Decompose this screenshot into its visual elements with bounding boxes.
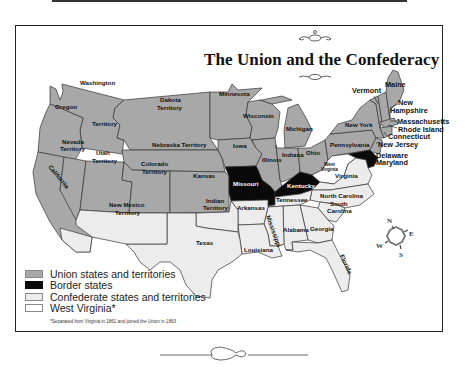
title-ornament-bottom [299,75,331,80]
label-michigan: Michigan [286,125,313,132]
legend-swatch-border [25,281,43,289]
legend-swatch-west-virginia [25,304,43,312]
label-utah-1: Utah [96,149,110,156]
label-georgia: Georgia [310,225,334,232]
label-pennsylvania: Pennsylvania [330,141,370,148]
legend-swatch-confederate [25,293,43,301]
compass-w: W [376,242,383,250]
label-kentucky: Kentucky [287,182,315,189]
label-nevada-2: Territory [60,145,86,152]
label-new-jersey: New Jersey [378,140,419,149]
legend-label: Border states [50,279,112,291]
compass-n: N [387,217,392,225]
label-new-mexico-2: Territory [115,209,141,216]
label-alabama: Alabama [283,226,309,233]
legend-item-west-virginia: West Virginia* [25,303,206,315]
compass-e: E [409,230,414,238]
label-arkansas: Arkansas [237,204,265,211]
legend-label: West Virginia* [50,302,116,314]
bottom-ornament [160,347,308,360]
label-new-york: New York [345,121,373,128]
label-louisiana: Louisiana [244,246,273,253]
label-north-carolina: North Carolina [320,192,364,199]
label-washington-territory: Territory [92,120,118,127]
label-dakota-2: Territory [157,104,183,111]
legend-footnote: *Separated from Virginia in 1861 and joi… [50,319,176,324]
label-indian-2: Territory [203,204,229,211]
legend-label: Union states and territories [50,268,175,280]
title-ornament-top [299,31,331,42]
label-colorado-2: Territory [142,168,168,175]
label-iowa: Iowa [233,142,247,149]
region-wisconsin [246,100,280,140]
label-utah-2: Territory [92,157,118,164]
legend-label: Confederate states and territories [50,291,206,303]
label-new-hampshire-2: Hampshire [390,106,428,115]
legend-item-confederate: Confederate states and territories [25,291,206,303]
label-oregon: Oregon [55,103,77,110]
label-maine: Maine [385,80,406,89]
label-south-carolina-2: Carolina [327,207,352,214]
label-colorado-1: Colorado [141,160,168,167]
legend-swatch-union [25,270,43,278]
label-vermont: Vermont [352,86,382,95]
label-illinois: Illinois [262,156,282,163]
label-indiana: Indiana [282,151,304,158]
compass-s: S [399,251,403,259]
label-nebraska: Nebraska Territory [152,141,207,148]
label-new-mexico-1: New Mexico [109,201,145,208]
map-legend: Union states and territories Border stat… [25,268,206,314]
label-nevada-1: Nevada [62,138,85,145]
label-dakota-1: Dakota [160,96,181,103]
label-wisconsin: Wisconsin [243,112,274,119]
region-nebraska-territory [122,150,225,172]
label-washington: Washington [80,79,115,86]
region-florida [286,240,350,292]
label-missouri: Missouri [233,180,259,187]
label-kansas: Kansas [193,172,216,179]
map-title: The Union and the Confederacy [204,50,439,70]
label-minnesota: Minnesota [219,90,250,97]
compass-rose: N E S W [376,217,414,259]
label-south-carolina-1: South [330,200,348,207]
label-texas: Texas [196,239,214,246]
label-ohio: Ohio [306,149,320,156]
legend-item-union: Union states and territories [25,268,206,280]
label-virginia: Virginia [335,172,358,179]
legend-item-border: Border states [25,280,206,292]
label-tennessee: Tennessee [276,196,308,203]
label-maryland: Maryland [376,158,408,167]
label-indian-1: Indian [206,197,224,204]
